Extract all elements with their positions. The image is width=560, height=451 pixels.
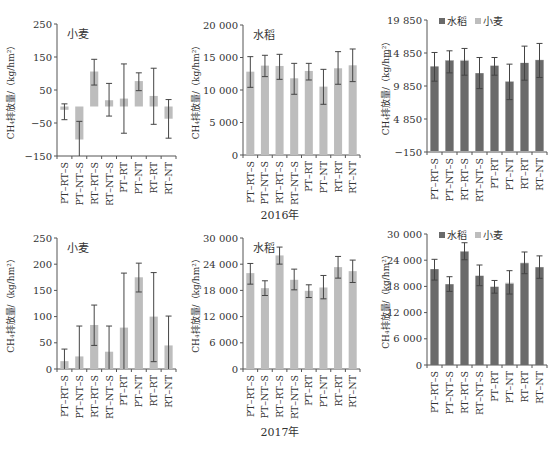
x-tick-label: RT–NT xyxy=(534,157,545,190)
y-tick-label: 24 000 xyxy=(387,255,422,266)
x-tick-label: PT–NT–S xyxy=(444,158,455,201)
y-tick-label: 19 850 xyxy=(387,15,422,26)
x-tick-label: PT–NT–S xyxy=(74,162,85,205)
x-tick-label: RT–NT–S xyxy=(289,161,300,205)
y-axis-label: CH₄排放量/（kg/hm²） xyxy=(5,41,16,140)
bar xyxy=(349,271,357,369)
y-axis-label: CH₄排放量/（kg/hm²） xyxy=(5,254,16,353)
y-tick-label: 0 xyxy=(232,150,238,161)
x-tick-label: PT–NT xyxy=(318,160,329,193)
chart-title: 水稻 xyxy=(253,29,275,42)
legend-wheat: 小麦 xyxy=(483,230,503,241)
x-tick-label: PT–NT–S xyxy=(259,161,270,204)
bar-rice xyxy=(475,276,483,365)
x-tick-label: RT–RT–S xyxy=(459,371,470,414)
y-tick-label: 250 xyxy=(33,233,52,244)
x-tick-label: RT–NT–S xyxy=(104,375,115,419)
x-tick-label: PT–NT xyxy=(504,157,515,190)
y-tick-label: 0 xyxy=(416,360,422,371)
bar xyxy=(246,273,254,369)
y-tick-label: 250 xyxy=(33,19,52,30)
y-tick-label: 50 xyxy=(39,337,52,348)
y-tick-label: 18 000 xyxy=(203,285,238,296)
x-tick-label: RT–NT–S xyxy=(289,375,300,419)
x-tick-label: PT–NT–S xyxy=(74,375,85,418)
x-tick-label: PT–RT xyxy=(489,370,500,401)
y-tick-label: 12 000 xyxy=(387,307,422,318)
x-tick-label: PT–NT xyxy=(133,374,144,407)
x-tick-label: RT–RT–S xyxy=(89,162,100,205)
x-tick-label: RT–NT xyxy=(163,161,174,194)
x-tick-label: RT–RT xyxy=(519,157,530,189)
x-tick-label: RT–RT xyxy=(148,374,159,406)
bar-rice xyxy=(490,66,498,151)
y-tick-label: 4 850 xyxy=(393,114,422,125)
chart-2017-annual: CH₄排放量/（kg/hm²）06 00012 00018 00024 0003… xyxy=(375,205,560,430)
chart-2017-rice: CH₄排放量/（kg/hm²）06 00012 00018 00024 0003… xyxy=(185,205,375,430)
bar xyxy=(305,291,313,369)
y-tick-label: 0 xyxy=(46,364,52,375)
x-tick-label: PT–NT xyxy=(318,374,329,407)
y-tick-label: 10 000 xyxy=(203,85,238,96)
bar xyxy=(290,280,298,369)
bar-rice xyxy=(490,287,498,365)
svg-text:CH₄排放量/（kg/hm²）: CH₄排放量/（kg/hm²） xyxy=(190,41,201,140)
x-tick-label: RT–NT xyxy=(347,160,358,193)
x-tick-label: PT–RT–S xyxy=(429,158,440,200)
y-tick-label: 12 000 xyxy=(203,311,238,322)
x-tick-label: RT–RT xyxy=(333,374,344,406)
x-tick-label: PT–RT xyxy=(303,374,314,405)
x-tick-label: RT–RT xyxy=(519,370,530,402)
y-tick-label: 5 000 xyxy=(209,117,238,128)
y-tick-label: 6 000 xyxy=(393,333,422,344)
y-tick-label: 24 000 xyxy=(203,259,238,270)
x-tick-label: PT–RT xyxy=(489,157,500,188)
x-tick-label: PT–RT–S xyxy=(429,371,440,413)
x-tick-label: RT–RT xyxy=(148,161,159,193)
x-tick-label: PT–RT xyxy=(303,160,314,191)
bar-rice xyxy=(505,283,513,365)
x-tick-label: RT–NT–S xyxy=(104,162,115,205)
bar xyxy=(261,66,269,155)
legend-rice: 水稻 xyxy=(447,16,467,27)
chart-2016-wheat: CH₄排放量/（kg/hm²）−150−5050150250小麦PT–RT–SP… xyxy=(0,0,190,205)
legend-wheat: 小麦 xyxy=(483,16,503,27)
x-tick-label: PT–NT–S xyxy=(444,371,455,414)
y-tick-label: 150 xyxy=(33,52,52,63)
x-tick-label: PT–NT–S xyxy=(259,375,270,418)
x-tick-label: RT–NT xyxy=(163,374,174,407)
x-tick-label: RT–RT xyxy=(333,160,344,192)
y-tick-label: 18 000 xyxy=(387,281,422,292)
bar-rice xyxy=(445,60,453,151)
chart-title: 小麦 xyxy=(67,242,89,255)
x-tick-label: RT–NT xyxy=(534,370,545,403)
svg-text:CH₄排放量/（kg/hm²）: CH₄排放量/（kg/hm²） xyxy=(190,254,201,353)
svg-text:CH₄排放量/（kg/hm²）: CH₄排放量/（kg/hm²） xyxy=(5,41,16,140)
svg-text:CH₄排放量/（kg/hm²）: CH₄排放量/（kg/hm²） xyxy=(5,254,16,353)
bar-rice xyxy=(445,284,453,365)
bar-rice xyxy=(535,267,543,365)
y-tick-label: 0 xyxy=(232,364,238,375)
bar xyxy=(319,287,327,369)
y-tick-label: 200 xyxy=(33,259,52,270)
x-tick-label: RT–RT–S xyxy=(459,158,470,201)
chart-title: 小麦 xyxy=(67,28,89,41)
bar xyxy=(276,255,284,369)
x-tick-label: RT–RT–S xyxy=(274,375,285,418)
y-axis-label: CH₄排放量/（kg/hm²） xyxy=(190,41,201,140)
y-tick-label: 15 000 xyxy=(203,52,238,63)
x-tick-label: RT–RT–S xyxy=(89,375,100,418)
bar xyxy=(334,267,342,369)
x-tick-label: PT–RT–S xyxy=(245,375,256,417)
chart-title: 水稻 xyxy=(253,242,275,255)
bar-rice xyxy=(520,263,528,365)
bar xyxy=(261,288,269,369)
y-tick-label: 30 000 xyxy=(203,233,238,244)
x-tick-label: RT–NT–S xyxy=(474,158,485,202)
y-tick-label: −150 xyxy=(395,147,422,158)
chart-2016-annual: CH₄排放量/（kg/hm²）−1504 8509 85014 85019 85… xyxy=(375,0,560,205)
chart-2016-rice: CH₄排放量/（kg/hm²）05 00010 00015 00020 000水… xyxy=(185,0,375,205)
bar-rice xyxy=(460,251,468,365)
x-tick-label: PT–RT xyxy=(118,161,129,192)
x-tick-label: PT–RT–S xyxy=(59,375,70,417)
